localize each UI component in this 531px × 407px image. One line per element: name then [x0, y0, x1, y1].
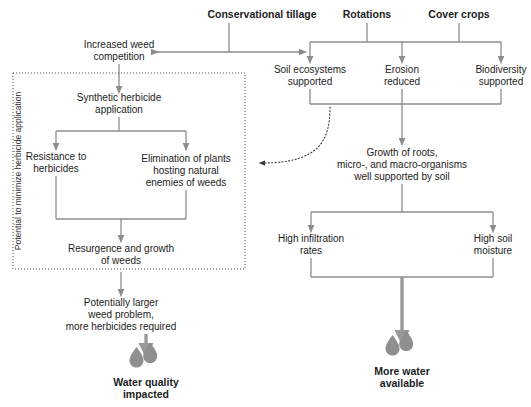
node-growth-roots-line2: micro-, and macro-organisms	[337, 159, 467, 170]
outcome-more-water-line1: More water	[374, 365, 429, 377]
heading-conservational-tillage: Conservational tillage	[207, 8, 316, 20]
water-drops-icon-right	[386, 331, 414, 356]
node-growth-roots-line3: well supported by soil	[353, 171, 450, 182]
node-soil-ecosystems-line2: supported	[288, 76, 332, 87]
node-resurgence-line2: of weeds	[101, 255, 141, 266]
heading-rotations: Rotations	[343, 8, 392, 20]
heading-cover-crops: Cover crops	[428, 8, 489, 20]
node-elimination-line2: hosting natural	[153, 165, 219, 176]
node-high-soil-moisture-line1: High soil	[474, 233, 512, 244]
water-drops-icon-left	[130, 343, 158, 368]
node-high-infiltration-line1: High infiltration	[278, 233, 344, 244]
node-increased-weed-competition-line1: Increased weed	[84, 39, 155, 50]
node-increased-weed-competition-line2: competition	[93, 51, 144, 62]
flowchart-svg: Conservational tillage Rotations Cover c…	[0, 0, 531, 407]
node-elimination-line1: Elimination of plants	[141, 153, 231, 164]
node-resistance-line2: herbicides	[33, 163, 79, 174]
node-potentially-larger-line1: Potentially larger	[84, 297, 159, 308]
node-erosion-reduced-line2: reduced	[384, 76, 420, 87]
node-potentially-larger-line3: more herbicides required	[66, 321, 177, 332]
node-synthetic-herbicide-line2: application	[95, 104, 143, 115]
region-label-potential-minimize-herbicide: Potential to minimize herbicide applicat…	[13, 92, 23, 251]
node-resurgence-line1: Resurgence and growth	[68, 243, 174, 254]
connector-dotted-feedback	[262, 107, 330, 163]
flowchart-diagram: Conservational tillage Rotations Cover c…	[0, 0, 531, 407]
node-resistance-line1: Resistance to	[26, 151, 87, 162]
node-high-infiltration-line2: rates	[300, 245, 322, 256]
node-erosion-reduced-line1: Erosion	[385, 64, 419, 75]
outcome-water-quality-line1: Water quality	[113, 376, 179, 388]
node-elimination-line3: enemies of weeds	[146, 177, 227, 188]
node-biodiversity-line1: Biodiversity	[475, 64, 526, 75]
node-soil-ecosystems-line1: Soil ecosystems	[274, 64, 346, 75]
node-synthetic-herbicide-line1: Synthetic herbicide	[77, 92, 162, 103]
node-potentially-larger-line2: weed problem,	[87, 309, 154, 320]
node-growth-roots-line1: Growth of roots,	[366, 147, 437, 158]
node-biodiversity-line2: supported	[479, 76, 523, 87]
outcome-water-quality-line2: impacted	[123, 388, 169, 400]
node-high-soil-moisture-line2: moisture	[474, 245, 513, 256]
outcome-more-water-line2: available	[380, 377, 425, 389]
